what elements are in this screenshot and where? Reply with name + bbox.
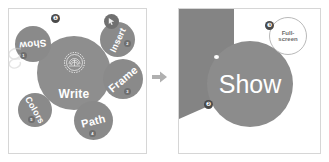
center-bubble-label: Write [59,87,90,101]
sunburst-gear-icon [61,49,88,80]
callout-3: ❸ [265,21,274,30]
spiral-swirl-icon [8,45,27,75]
node-bubble-insert[interactable]: Insert 2 [100,22,135,57]
callout-1: ❶ [51,14,60,23]
cursor-arrow-icon [104,14,119,29]
show-circle-label: Show [219,70,282,99]
node-bubble-path-label: Path [80,112,107,130]
screenshot-root: Write Show 1 [0,0,329,162]
node-badge-path: 4 [89,130,96,137]
node-badge-insert: 2 [124,40,131,47]
node-bubble-path[interactable]: Path 4 [74,101,113,140]
show-preview-panel: Show Full- screen [178,8,321,154]
fullscreen-ring-text: Full- screen [278,30,297,43]
node-badge-frame: 3 [124,88,131,95]
node-bubble-insert-label: Insert [108,26,128,54]
mindmap-panel: Write Show 1 [8,8,147,154]
arrow-right-icon [152,70,168,88]
highlight-dot [214,55,219,59]
fullscreen-line-2: screen [278,36,297,42]
node-bubble-frame[interactable]: Frame 3 [103,59,143,99]
node-bubble-colors[interactable]: Colors 5 [18,93,52,127]
fullscreen-ring[interactable]: Full- screen [269,17,307,55]
callout-2: ❷ [204,100,213,109]
show-circle[interactable]: Show [207,41,293,127]
node-bubble-colors-label: Colors [23,95,47,126]
node-bubble-frame-label: Frame [106,63,140,94]
node-badge-colors: 5 [28,116,35,123]
